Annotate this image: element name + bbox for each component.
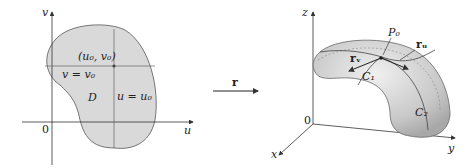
mapping-label: r	[232, 76, 238, 89]
surface	[313, 40, 450, 137]
x-axis	[279, 124, 313, 155]
axis-z-label: z	[301, 6, 308, 19]
v-eq-v0-label: v = v₀	[62, 68, 96, 81]
point-label: (u₀, v₀)	[78, 50, 116, 63]
p0-label: P₀	[387, 26, 400, 39]
point-u0-v0	[112, 64, 115, 67]
axis-x-label: x	[271, 148, 278, 161]
axis-y-label: y	[447, 142, 455, 155]
rv-label: rᵥ	[350, 52, 361, 65]
parametric-surface-diagram: v u 0 (u₀, v₀) v = v₀ u = u₀ D r z y x 0…	[0, 0, 472, 168]
ru-label: rᵤ	[416, 38, 428, 51]
axis-v-label: v	[42, 6, 49, 19]
surface-plot: z y x 0 P₀ rᵤ rᵥ C₁ C₂	[271, 6, 455, 161]
region-d	[47, 25, 156, 149]
c2-label: C₂	[415, 106, 428, 119]
diagram-canvas: v u 0 (u₀, v₀) v = v₀ u = u₀ D r z y x 0…	[0, 0, 472, 168]
domain-plot: v u 0 (u₀, v₀) v = v₀ u = u₀ D	[22, 6, 193, 165]
c1-label: C₁	[362, 70, 375, 83]
u-eq-u0-label: u = u₀	[117, 90, 152, 103]
region-d-label: D	[87, 91, 97, 104]
mapping-arrow: r	[213, 76, 258, 91]
origin-label: 0	[42, 123, 49, 136]
axis-u-label: u	[184, 124, 191, 137]
origin-label-3d: 0	[304, 114, 311, 127]
